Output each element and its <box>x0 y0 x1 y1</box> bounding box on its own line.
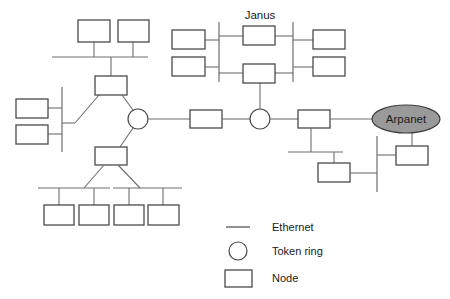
node-box[interactable] <box>44 205 74 225</box>
node-box[interactable] <box>313 30 345 49</box>
node-box-backbone[interactable] <box>190 110 222 128</box>
node-box[interactable] <box>114 205 144 225</box>
node-box-hub-lower[interactable] <box>95 147 127 165</box>
legend-label-node: Node <box>272 272 298 284</box>
legend-token-ring-icon <box>229 242 247 260</box>
network-topology-svg: Janus <box>0 0 450 299</box>
backbone <box>148 83 373 129</box>
node-box[interactable] <box>148 205 179 225</box>
node-box[interactable] <box>243 26 275 45</box>
node-box[interactable] <box>172 57 205 76</box>
node-box[interactable] <box>396 146 428 165</box>
node-box[interactable] <box>79 205 109 225</box>
legend: Ethernet Token ring Node <box>225 221 323 287</box>
node-box[interactable] <box>16 125 48 144</box>
node-box[interactable] <box>313 57 345 76</box>
network-diagram-canvas: Janus <box>0 0 450 299</box>
cluster-right-lower <box>288 128 428 192</box>
link-hub-to-bottom-bus-right <box>118 165 140 188</box>
token-ring-symbol-left[interactable] <box>128 109 148 129</box>
cluster-top-left <box>52 20 149 76</box>
node-box[interactable] <box>243 64 275 83</box>
legend-label-token-ring: Token ring <box>272 245 323 257</box>
node-box-gateway[interactable] <box>298 110 330 128</box>
link-bus-to-hub-diagonal <box>75 95 99 123</box>
cluster-left-core <box>95 76 148 165</box>
node-box[interactable] <box>16 99 48 118</box>
cluster-left-vertical <box>16 87 99 152</box>
link-hub-to-token-ring <box>122 95 133 110</box>
legend-node-icon <box>225 270 252 287</box>
legend-label-ethernet: Ethernet <box>272 221 314 233</box>
cluster-bottom <box>38 165 182 225</box>
link-hub-to-bottom-bus-left <box>84 165 104 188</box>
arpanet-label: Arpanet <box>386 113 427 125</box>
arpanet-cloud[interactable]: Arpanet <box>372 105 440 133</box>
cluster-janus: Janus <box>172 9 345 83</box>
node-box-hub-upper[interactable] <box>95 76 127 95</box>
node-box[interactable] <box>318 163 350 182</box>
link-token-ring-to-hub-lower <box>120 128 133 147</box>
janus-label: Janus <box>245 9 276 21</box>
node-box[interactable] <box>172 30 205 49</box>
token-ring-symbol-right[interactable] <box>250 109 270 129</box>
node-box[interactable] <box>118 20 149 42</box>
node-box[interactable] <box>78 20 110 42</box>
